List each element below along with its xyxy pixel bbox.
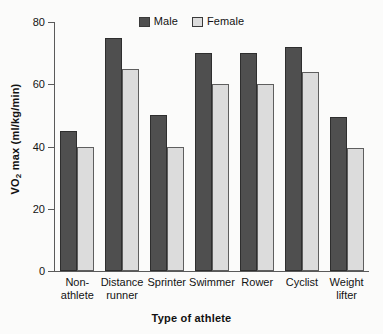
bar-female [212, 84, 229, 271]
bar-male [240, 53, 257, 271]
plot-area: 020406080 [54, 22, 369, 272]
y-axis-tick-label: 80 [33, 17, 45, 28]
y-axis-tick-mark [48, 147, 54, 148]
x-axis-tick-label: Swimmer [189, 276, 235, 301]
y-axis-title-wrap: VO2 max (ml/kg/min) [4, 0, 26, 278]
bar-female [302, 72, 319, 271]
y-axis-tick-label: 20 [33, 203, 45, 214]
bar-male [330, 117, 347, 271]
x-axis-tick-label: Cyclist [280, 276, 325, 301]
x-axis-line [54, 271, 369, 272]
bar-female [167, 147, 184, 272]
x-axis-tick-label: Weightlifter [324, 276, 369, 301]
bar-female [257, 84, 274, 271]
chart-figure: Male Female VO2 max (ml/kg/min) 02040608… [0, 0, 383, 334]
y-axis-tick-mark [48, 22, 54, 23]
bar-groups [55, 22, 369, 271]
bar-group [234, 22, 279, 271]
bar-female [347, 148, 364, 271]
bar-female [122, 69, 139, 271]
bar-male [105, 38, 122, 271]
bar-female [77, 147, 94, 272]
bar-male [195, 53, 212, 271]
bar-group [324, 22, 369, 271]
bar-male [60, 131, 77, 271]
y-axis-tick-mark [48, 209, 54, 210]
y-axis-tick-label: 40 [33, 141, 45, 152]
x-axis-tick-label: Non-athlete [55, 276, 100, 301]
y-axis-tick-mark [48, 271, 54, 272]
bar-group [190, 22, 235, 271]
y-axis-title: VO2 max (ml/kg/min) [9, 84, 21, 195]
bar-group [279, 22, 324, 271]
bar-male [150, 115, 167, 271]
y-axis-title-subscript: 2 [14, 174, 23, 179]
x-axis-tick-labels: Non-athleteDistancerunnerSprinterSwimmer… [55, 276, 369, 301]
bar-group [145, 22, 190, 271]
x-axis-tick-label: Sprinter [144, 276, 189, 301]
bar-group [100, 22, 145, 271]
bar-male [285, 47, 302, 271]
y-axis-title-suffix: max (ml/kg/min) [9, 84, 21, 174]
y-axis-tick-label: 0 [39, 266, 45, 277]
y-axis-title-prefix: VO [9, 178, 21, 194]
y-axis-tick-label: 60 [33, 79, 45, 90]
y-axis-tick-mark [48, 84, 54, 85]
x-axis-tick-label: Rower [235, 276, 280, 301]
bar-group [55, 22, 100, 271]
x-axis-title: Type of athlete [0, 312, 383, 324]
x-axis-tick-label: Distancerunner [100, 276, 145, 301]
